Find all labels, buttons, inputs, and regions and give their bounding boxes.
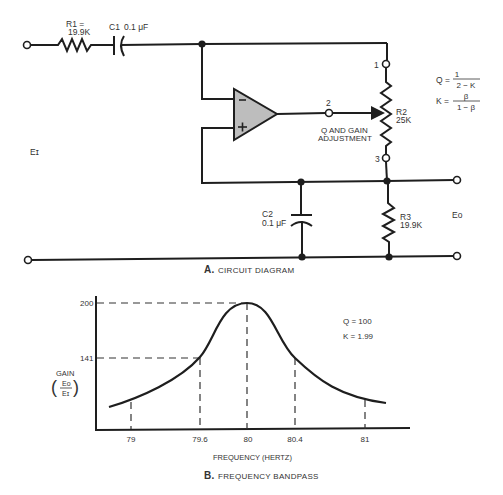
y-axis-eo: Eo — [62, 380, 71, 387]
q-equation-denominator: 2 − K — [457, 81, 477, 90]
x-tick-79-6: 79.6 — [192, 435, 208, 444]
figure-canvas: R1 = 19.9K C1 0.1 μF Eɪ Eo 1 2 3 R2 25K … — [0, 0, 503, 495]
x-tick-81: 81 — [361, 435, 370, 444]
input-terminal-top — [24, 42, 31, 49]
k-parameter: K = 1.99 — [343, 332, 374, 341]
y-axis-paren-right: ) — [73, 377, 79, 397]
y-axis-ei: Eɪ — [62, 390, 70, 397]
y-axis-paren-left: ( — [51, 377, 57, 397]
potentiometer-r2 — [381, 68, 391, 154]
circuit-diagram — [24, 36, 461, 264]
y-tick-200: 200 — [80, 299, 94, 308]
output-terminal-top — [454, 177, 461, 184]
x-axis — [96, 428, 410, 430]
k-equation-lhs: K = — [436, 96, 449, 106]
y-axis-label: GAIN — [56, 369, 74, 378]
q-equation-numerator: 1 — [455, 70, 460, 79]
k-equation-denominator: 1 − β — [457, 103, 476, 112]
output-voltage-label: Eo — [452, 210, 463, 220]
output-terminal-bottom — [454, 253, 461, 260]
caption-b-letter: B. — [204, 470, 215, 481]
k-equation-numerator: β — [464, 92, 469, 101]
caption-a-text: CIRCUIT DIAGRAM — [218, 266, 294, 275]
terminal-3 — [383, 155, 390, 162]
r2-value: 25K — [396, 115, 411, 125]
terminal-3-label: 3 — [375, 154, 380, 164]
c1-value: 0.1 μF — [124, 22, 148, 32]
caption-a-letter: A. — [204, 264, 215, 275]
adjustment-label-line2: ADJUSTMENT — [318, 134, 372, 143]
r1-value: 19.9K — [68, 27, 91, 37]
c1-name: C1 — [109, 22, 120, 32]
terminal-1 — [383, 61, 390, 68]
caption-b-text: FREQUENCY BANDPASS — [218, 472, 319, 481]
input-voltage-label: Eɪ — [30, 147, 39, 157]
equations: Q = 1 2 − K K = β 1 − β — [436, 70, 480, 112]
x-axis-label: FREQUENCY (HERTZ) — [213, 453, 292, 462]
y-tick-141: 141 — [80, 354, 94, 363]
r3-value: 19.9K — [400, 220, 423, 230]
resistor-r1 — [31, 39, 113, 51]
terminal-2-label: 2 — [326, 98, 331, 108]
x-tick-79: 79 — [127, 435, 136, 444]
x-tick-80-4: 80.4 — [287, 435, 303, 444]
resistor-r3 — [383, 181, 394, 257]
c2-value: 0.1 μF — [262, 218, 286, 228]
terminal-2 — [326, 110, 333, 117]
opamp-triangle — [234, 89, 277, 140]
capacitor-c1-plate-b — [121, 36, 124, 56]
q-equation-lhs: Q = — [436, 75, 450, 85]
input-terminal-bottom — [25, 257, 32, 264]
x-tick-80: 80 — [244, 435, 253, 444]
terminal-1-label: 1 — [374, 60, 379, 70]
q-parameter: Q = 100 — [343, 317, 372, 326]
